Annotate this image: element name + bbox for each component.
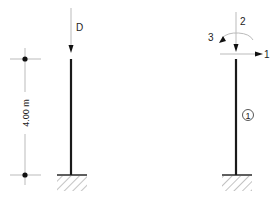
dof-rotation: 3	[208, 32, 253, 43]
load-label: D	[76, 22, 83, 33]
diagram-canvas: 4.00 m D 2 3	[0, 0, 276, 198]
fixed-support-icon	[57, 175, 87, 191]
dimension-line: 4.00 m	[10, 48, 41, 185]
member-label-badge: 1	[243, 110, 254, 121]
arrow-down-icon	[69, 45, 74, 53]
dof-horizontal: 1	[220, 49, 270, 60]
arrow-right-icon	[255, 52, 263, 57]
dimension-top-dot	[22, 56, 27, 61]
dimension-bottom-dot	[22, 172, 27, 177]
dof-label-3: 3	[208, 32, 214, 43]
dof-vertical: 2	[234, 12, 247, 52]
dof-label-2: 2	[240, 16, 246, 27]
load-arrow-d: D	[69, 8, 84, 53]
dimension-label: 4.00 m	[21, 99, 31, 127]
rotation-arrow-icon	[219, 36, 226, 43]
fixed-support-icon	[222, 175, 252, 191]
right-model: 2 3 1 1	[208, 12, 270, 191]
arrow-down-icon	[234, 44, 239, 52]
dof-label-1: 1	[264, 49, 270, 60]
member-label: 1	[245, 111, 250, 121]
left-model: 4.00 m D	[10, 8, 87, 191]
